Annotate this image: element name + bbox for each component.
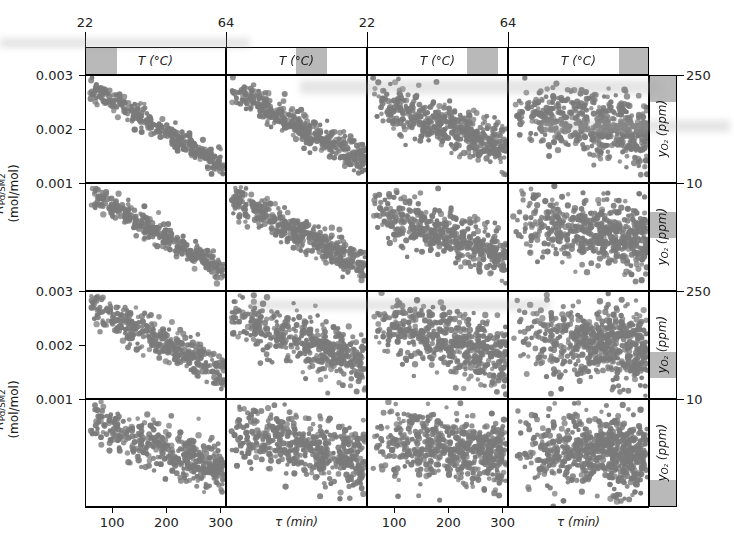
x-tick-label: 100 (382, 516, 407, 529)
scatter-matrix-figure: T (°C)T (°C)T (°C)T (°C)yO₂ (ppm)yO₂ (pp… (0, 0, 734, 557)
strip-top-col0: T (°C) (85, 47, 226, 75)
x-tick-label: 300 (490, 516, 515, 529)
strip-top-label: T (°C) (368, 48, 507, 74)
y-tick-mark (79, 129, 85, 130)
y-tick-mark (79, 399, 85, 400)
strip-top-label: T (°C) (227, 48, 366, 74)
scatter-canvas (227, 184, 367, 291)
panel-r1-c1 (226, 183, 367, 291)
scatter-canvas (86, 292, 226, 399)
panel-r1-c3 (508, 183, 649, 291)
x-axis-line (85, 507, 226, 508)
x-top-tick-mark (85, 32, 86, 47)
y-right-tick-mark (677, 183, 684, 184)
strip-right-row0: yO₂ (ppm) (649, 75, 677, 183)
y-tick-label: 0.003 (0, 285, 73, 298)
panel-r3-c3 (508, 399, 649, 507)
strip-top-label: T (°C) (509, 48, 648, 74)
y-axis-title-text: RPd/SM2(mol/mol) (0, 380, 21, 438)
scatter-canvas (509, 292, 649, 399)
y-tick-mark (79, 345, 85, 346)
x-tick-label: 200 (436, 516, 461, 529)
scatter-canvas (227, 292, 367, 399)
y-tick-label: 0.002 (0, 339, 73, 352)
y-right-tick-label: 10 (686, 177, 703, 190)
x-top-tick-mark (367, 32, 368, 47)
y-right-tick-label: 250 (686, 285, 711, 298)
x-tick-label: 300 (208, 516, 233, 529)
y-axis-title-text: RPd/SM2(mol/mol) (0, 164, 21, 222)
x-top-tick-label: 22 (77, 16, 94, 29)
panel-r0-c2 (367, 75, 508, 183)
panel-r0-c0 (85, 75, 226, 183)
strip-right-row1: yO₂ (ppm) (649, 183, 677, 291)
scatter-canvas (86, 76, 226, 183)
scatter-canvas (86, 400, 226, 507)
strip-top-col1: T (°C) (226, 47, 367, 75)
strip-top-col3: T (°C) (508, 47, 649, 75)
scatter-canvas (509, 184, 649, 291)
x-axis-title: τ (min) (557, 516, 600, 528)
y-axis-title: RPd/SM2(mol/mol) (0, 380, 22, 438)
strip-right-row2: yO₂ (ppm) (649, 291, 677, 399)
y-right-tick-label: 250 (686, 69, 711, 82)
x-axis-line (367, 507, 508, 508)
y-tick-mark (79, 291, 85, 292)
panel-r0-c1 (226, 75, 367, 183)
y-tick-label: 0.003 (0, 69, 73, 82)
y-tick-mark (79, 183, 85, 184)
panel-r3-c1 (226, 399, 367, 507)
y-right-tick-mark (677, 291, 684, 292)
scatter-canvas (368, 400, 508, 507)
panel-r2-c0 (85, 291, 226, 399)
strip-right-label: yO₂ (ppm) (650, 400, 676, 506)
scatter-canvas (227, 400, 367, 507)
scatter-canvas (368, 184, 508, 291)
scatter-canvas (227, 76, 367, 183)
strip-right-label: yO₂ (ppm) (650, 292, 676, 398)
y-right-tick-mark (677, 399, 684, 400)
x-axis-line (508, 507, 649, 508)
x-top-tick-mark (508, 32, 509, 47)
x-axis-title: τ (min) (275, 516, 318, 528)
x-top-tick-label: 64 (500, 16, 517, 29)
strip-top-col2: T (°C) (367, 47, 508, 75)
scatter-canvas (368, 292, 508, 399)
y-tick-mark (79, 75, 85, 76)
scatter-canvas (86, 184, 226, 291)
scatter-canvas (368, 76, 508, 183)
x-tick-label: 200 (154, 516, 179, 529)
panel-r1-c0 (85, 183, 226, 291)
x-tick-label: 100 (100, 516, 125, 529)
y-tick-label: 0.002 (0, 123, 73, 136)
scatter-canvas (509, 400, 649, 507)
y-axis-title: RPd/SM2(mol/mol) (0, 164, 22, 222)
panel-r3-c0 (85, 399, 226, 507)
x-axis-line (226, 507, 367, 508)
strip-right-label: yO₂ (ppm) (650, 76, 676, 182)
panel-r3-c2 (367, 399, 508, 507)
y-right-tick-label: 10 (686, 393, 703, 406)
strip-right-row3: yO₂ (ppm) (649, 399, 677, 507)
x-top-tick-label: 64 (218, 16, 235, 29)
panel-r2-c3 (508, 291, 649, 399)
strip-top-label: T (°C) (86, 48, 225, 74)
strip-right-label: yO₂ (ppm) (650, 184, 676, 290)
y-right-tick-mark (677, 75, 684, 76)
panel-r2-c2 (367, 291, 508, 399)
panel-r2-c1 (226, 291, 367, 399)
scatter-canvas (509, 76, 649, 183)
x-top-tick-label: 22 (359, 16, 376, 29)
panel-r0-c3 (508, 75, 649, 183)
panel-r1-c2 (367, 183, 508, 291)
x-top-tick-mark (226, 32, 227, 47)
